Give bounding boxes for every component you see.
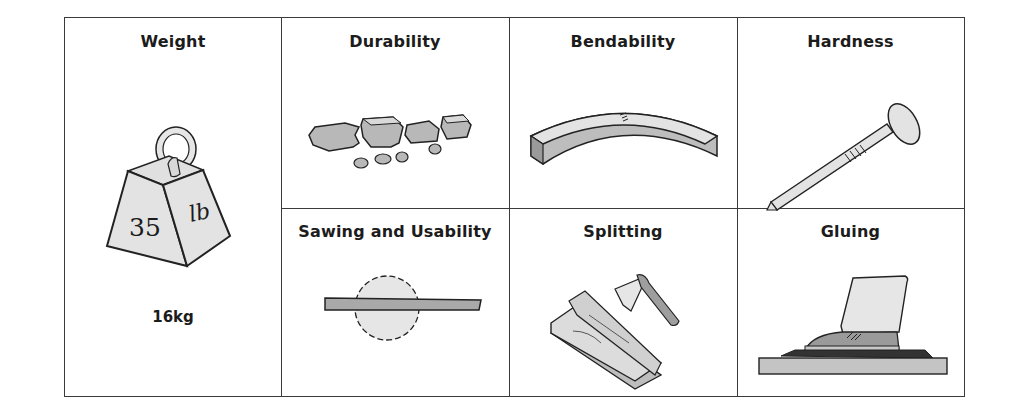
- svg-text:35: 35: [129, 213, 161, 242]
- cell-title: Splitting: [509, 222, 737, 241]
- bent-beam-icon: [529, 106, 724, 176]
- cell-title: Sawing and Usability: [281, 222, 509, 241]
- cell-sawing: Sawing and Usability: [281, 208, 509, 396]
- cell-splitting: Splitting: [509, 208, 737, 396]
- axe-and-log-icon: [549, 263, 709, 398]
- properties-figure: Weight 35 lb 16kg Durability: [64, 17, 965, 397]
- cell-title: Weight: [65, 32, 281, 51]
- cell-gluing: Gluing: [737, 208, 964, 396]
- cell-title: Gluing: [737, 222, 964, 241]
- cell-bendability: Bendability: [509, 18, 737, 208]
- nail-icon: [767, 82, 927, 212]
- circular-saw-icon: [311, 268, 486, 348]
- broken-pieces-icon: [301, 113, 491, 183]
- clamped-shoe-icon: [757, 268, 949, 388]
- weight-icon: 35 lb: [105, 118, 245, 278]
- weight-caption: 16kg: [65, 308, 281, 326]
- cell-title: Bendability: [509, 32, 737, 51]
- cell-weight: Weight 35 lb 16kg: [65, 18, 281, 396]
- cell-title: Hardness: [737, 32, 964, 51]
- cell-hardness: Hardness: [737, 18, 964, 208]
- cell-title: Durability: [281, 32, 509, 51]
- cell-durability: Durability: [281, 18, 509, 208]
